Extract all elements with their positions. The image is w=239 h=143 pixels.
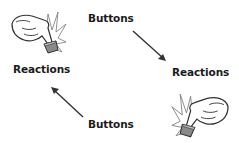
reactions-label-right: Reactions — [172, 66, 229, 78]
hand-pressing-button-icon — [168, 88, 234, 142]
buttons-label-top: Buttons — [88, 12, 134, 24]
reactions-label-left: Reactions — [13, 63, 70, 75]
arrow-up-left-icon — [48, 84, 88, 120]
buttons-label-bottom: Buttons — [88, 118, 134, 130]
hand-pressing-button-icon — [8, 6, 68, 58]
arrow-down-right-icon — [130, 28, 170, 64]
